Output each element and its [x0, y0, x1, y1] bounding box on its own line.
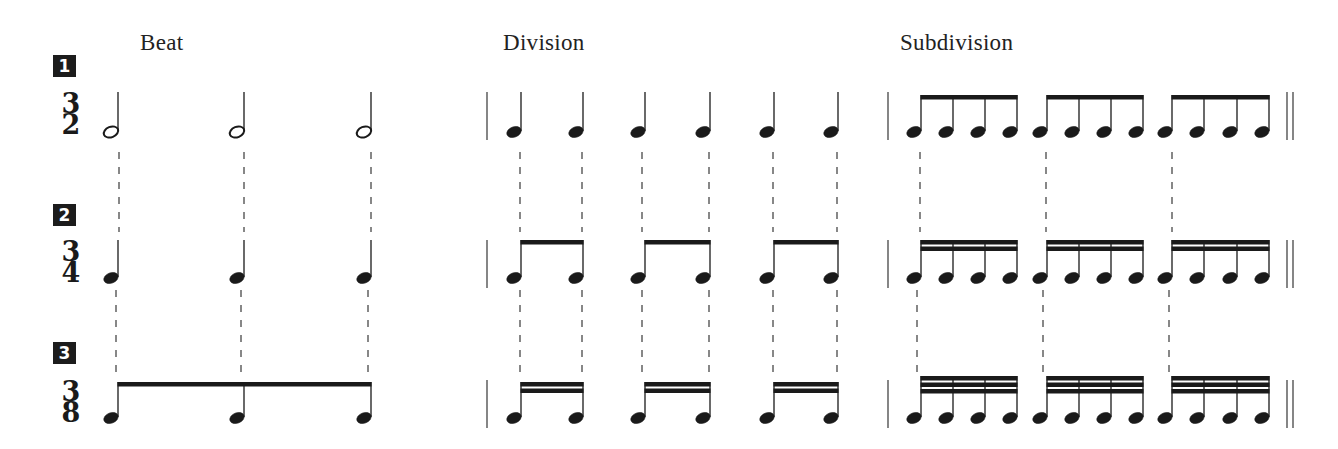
- beam: [921, 240, 1018, 245]
- note-head-icon: [694, 410, 712, 425]
- note-head-icon: [1253, 270, 1271, 285]
- note-head-icon: [1063, 270, 1081, 285]
- note-head-icon: [1188, 270, 1206, 285]
- half-note-head-icon: [102, 124, 120, 139]
- note-head-icon: [1156, 124, 1174, 139]
- note-head-icon: [629, 270, 647, 285]
- beam: [1172, 95, 1270, 100]
- note-head-icon: [905, 124, 923, 139]
- beam: [521, 389, 584, 394]
- note-head-icon: [1156, 270, 1174, 285]
- note-head-icon: [822, 410, 840, 425]
- note-head-icon: [1001, 410, 1019, 425]
- note-head-icon: [1253, 410, 1271, 425]
- note-head-icon: [1031, 270, 1049, 285]
- note-head-icon: [1063, 410, 1081, 425]
- note-head-icon: [1095, 270, 1113, 285]
- note-head-icon: [1188, 410, 1206, 425]
- beam: [118, 382, 372, 387]
- note-head-icon: [1221, 124, 1239, 139]
- notation-canvas: [0, 0, 1338, 449]
- beam: [1047, 389, 1144, 394]
- note-head-icon: [969, 124, 987, 139]
- note-head-icon: [102, 270, 120, 285]
- note-head-icon: [937, 410, 955, 425]
- note-head-icon: [228, 410, 246, 425]
- note-head-icon: [758, 270, 776, 285]
- beam: [645, 240, 711, 245]
- note-head-icon: [505, 270, 523, 285]
- note-head-icon: [822, 270, 840, 285]
- note-head-icon: [1221, 410, 1239, 425]
- note-head-icon: [629, 410, 647, 425]
- beam: [921, 247, 1018, 252]
- beam: [921, 389, 1018, 394]
- note-head-icon: [969, 270, 987, 285]
- note-head-icon: [1001, 270, 1019, 285]
- half-note-head-icon: [228, 124, 246, 139]
- note-head-icon: [629, 124, 647, 139]
- beam: [1047, 247, 1144, 252]
- beam: [1047, 95, 1144, 100]
- note-head-icon: [969, 410, 987, 425]
- beam: [921, 95, 1018, 100]
- beam: [1172, 383, 1270, 388]
- half-note-head-icon: [355, 124, 373, 139]
- note-head-icon: [758, 410, 776, 425]
- beam: [521, 382, 584, 387]
- note-head-icon: [505, 124, 523, 139]
- note-head-icon: [1001, 124, 1019, 139]
- note-head-icon: [1031, 124, 1049, 139]
- note-head-icon: [905, 410, 923, 425]
- beam: [1047, 376, 1144, 381]
- note-head-icon: [355, 410, 373, 425]
- beam: [645, 389, 711, 394]
- note-head-icon: [1095, 124, 1113, 139]
- note-head-icon: [822, 124, 840, 139]
- beam: [521, 240, 584, 245]
- beam: [774, 389, 839, 394]
- beam: [774, 382, 839, 387]
- beam: [1172, 240, 1270, 245]
- note-head-icon: [567, 410, 585, 425]
- note-head-icon: [567, 124, 585, 139]
- note-head-icon: [1221, 270, 1239, 285]
- note-head-icon: [1031, 410, 1049, 425]
- note-head-icon: [1095, 410, 1113, 425]
- note-head-icon: [1127, 410, 1145, 425]
- note-head-icon: [905, 270, 923, 285]
- beam: [921, 376, 1018, 381]
- note-head-icon: [102, 410, 120, 425]
- note-head-icon: [1156, 410, 1174, 425]
- note-head-icon: [1127, 124, 1145, 139]
- beam: [645, 382, 711, 387]
- beam: [921, 383, 1018, 388]
- note-head-icon: [505, 410, 523, 425]
- note-head-icon: [567, 270, 585, 285]
- rhythm-diagram: Beat Division Subdivision 1 2 3 3 2 3 4 …: [0, 0, 1338, 449]
- beam: [1172, 389, 1270, 394]
- note-head-icon: [1188, 124, 1206, 139]
- note-head-icon: [355, 270, 373, 285]
- note-head-icon: [758, 124, 776, 139]
- beam: [774, 240, 839, 245]
- note-head-icon: [228, 270, 246, 285]
- note-head-icon: [937, 270, 955, 285]
- note-head-icon: [937, 124, 955, 139]
- note-head-icon: [694, 124, 712, 139]
- beam: [1047, 240, 1144, 245]
- beam: [1172, 247, 1270, 252]
- beam: [1172, 376, 1270, 381]
- beam: [1047, 383, 1144, 388]
- note-head-icon: [694, 270, 712, 285]
- note-head-icon: [1127, 270, 1145, 285]
- note-head-icon: [1253, 124, 1271, 139]
- note-head-icon: [1063, 124, 1081, 139]
